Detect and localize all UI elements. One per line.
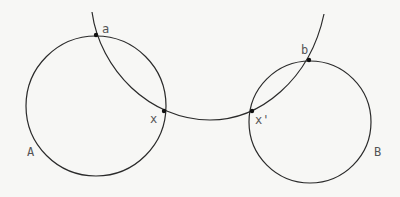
- connecting-arc: [92, 12, 324, 120]
- point-a: [94, 33, 98, 37]
- label-circle-a: A: [27, 145, 35, 159]
- diagram-canvas: a x x' b A B: [0, 0, 400, 197]
- label-a: a: [102, 22, 109, 36]
- label-x: x: [150, 112, 157, 126]
- label-circle-b: B: [374, 145, 381, 159]
- diagram-svg: a x x' b A B: [0, 0, 400, 197]
- point-x: [162, 109, 166, 113]
- label-b: b: [301, 43, 308, 57]
- point-b: [307, 58, 311, 62]
- circle-a: [26, 36, 166, 176]
- point-x-prime: [250, 109, 254, 113]
- label-x-prime: x': [255, 113, 269, 127]
